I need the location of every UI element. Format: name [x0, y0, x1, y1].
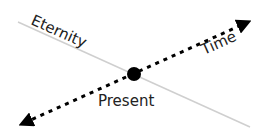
time-label: Time [197, 27, 239, 59]
present-label: Present [98, 92, 154, 110]
eternity-time-diagram: Eternity Time Present [0, 0, 268, 139]
eternity-label: Eternity [28, 11, 89, 51]
present-dot [127, 67, 141, 81]
